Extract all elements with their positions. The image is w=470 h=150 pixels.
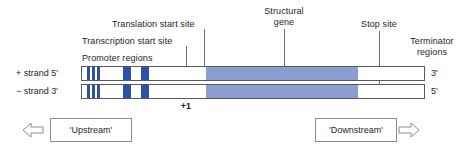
label-stop-site: Stop site: [348, 19, 410, 30]
leader-line-transcription-start-site: [186, 46, 187, 66]
promoter-block: [92, 67, 95, 80]
structural-gene-block: [206, 85, 358, 98]
label-structural-gene-line2: gene: [252, 17, 316, 28]
promoter-block: [97, 85, 100, 98]
promoter-block: [123, 85, 131, 98]
plus-strand-left-label: + strand 5': [16, 68, 58, 79]
left-arrow-icon: [22, 120, 44, 140]
minus-strand-bar: [81, 84, 425, 99]
label-transcription-start-site: Transcription start site: [82, 36, 172, 47]
position-marker-plus-one: +1: [172, 101, 200, 112]
label-translation-start-site: Translation start site: [112, 19, 195, 30]
label-promoter-regions: Promoter regions: [82, 53, 152, 64]
plus-strand-bar: [81, 66, 425, 81]
upstream-box: 'Upstream': [50, 118, 132, 142]
promoter-block: [123, 67, 131, 80]
promoter-block: [141, 85, 149, 98]
plus-strand-right-label: 3': [431, 68, 438, 79]
structural-gene-block: [206, 67, 358, 80]
promoter-block: [141, 67, 149, 80]
minus-strand-left-label: − strand 3': [16, 86, 58, 97]
promoter-block: [92, 85, 95, 98]
leader-line-translation-start-site: [204, 29, 205, 66]
leader-line-structural-gene: [284, 29, 285, 66]
minus-strand-right-label: 5': [431, 86, 438, 97]
downstream-box: 'Downstream': [315, 118, 397, 142]
label-terminator-regions-line2: regions: [396, 47, 468, 58]
promoter-block: [87, 85, 90, 98]
promoter-block: [97, 67, 100, 80]
gene-structure-diagram: Translation start site Transcription sta…: [0, 0, 470, 150]
right-arrow-icon: [398, 120, 420, 140]
label-structural-gene-line1: Structural: [252, 6, 316, 17]
label-terminator-regions-line1: Terminator: [396, 36, 468, 47]
promoter-block: [87, 67, 90, 80]
